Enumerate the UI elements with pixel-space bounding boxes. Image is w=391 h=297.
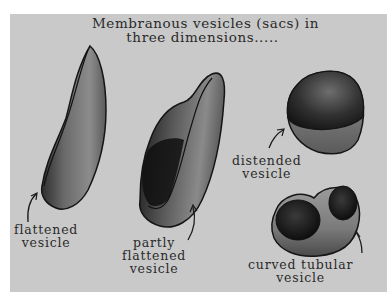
label-curved-tubular-vesicle: curved tubular vesicle bbox=[248, 258, 353, 284]
flattened-vesicle-shape bbox=[42, 46, 106, 209]
vesicle-illustrations bbox=[0, 0, 391, 297]
label-partly-flattened-vesicle: partly flattened vesicle bbox=[122, 236, 186, 275]
arrow-distended bbox=[269, 130, 283, 148]
label-text: vesicle bbox=[14, 236, 78, 249]
label-distended-vesicle: distended vesicle bbox=[232, 154, 302, 180]
arrow-flattened bbox=[28, 194, 36, 222]
label-flattened-vesicle: flattened vesicle bbox=[14, 223, 78, 249]
label-text: vesicle bbox=[248, 271, 353, 284]
curved-tubular-vesicle-shape bbox=[272, 186, 360, 256]
partly-flattened-vesicle-shape bbox=[140, 73, 225, 227]
distended-vesicle-shape bbox=[287, 71, 363, 154]
label-text: vesicle bbox=[122, 262, 186, 275]
label-text: vesicle bbox=[232, 167, 302, 180]
